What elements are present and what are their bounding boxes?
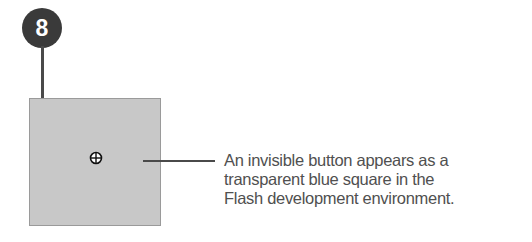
callout-pointer-line [143, 160, 215, 162]
callout-line-2: transparent blue square in the [224, 170, 524, 189]
step-number-badge: 8 [22, 8, 62, 48]
callout-line-1: An invisible button appears as a [224, 151, 524, 170]
step-number: 8 [36, 15, 49, 41]
callout-line-3: Flash development environment. [224, 189, 524, 208]
crosshair-registration-point-icon [89, 151, 103, 165]
callout-text: An invisible button appears as a transpa… [224, 151, 524, 208]
